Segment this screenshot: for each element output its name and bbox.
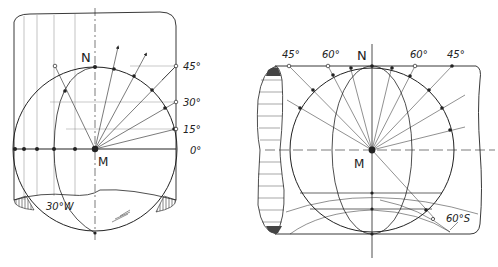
left-label-north: N — [81, 50, 91, 65]
ray-arrow-45 — [162, 66, 176, 80]
right-figure-cylindrical-projection — [257, 44, 495, 258]
right-label-center: M — [354, 157, 364, 171]
left-label-lat-15: 15° — [183, 124, 201, 135]
right-label-south-60: 60°S — [446, 213, 471, 224]
profile-shade-bottom — [266, 226, 282, 233]
right-label-north: N — [357, 48, 367, 63]
latitude-guides — [50, 66, 176, 129]
left-label-lat-30: 30° — [183, 97, 201, 108]
left-figure-cylindrical-projection — [13, 8, 178, 240]
right-label-top-left-60: 60° — [322, 49, 340, 60]
point-top-right-45 — [450, 64, 454, 68]
left-label-lat-45: 45° — [183, 61, 201, 72]
hatched-right-end — [156, 196, 176, 212]
open-points — [287, 64, 434, 220]
vertical-projection-lines — [24, 14, 75, 200]
right-label-top-right-60: 60° — [410, 49, 428, 60]
left-label-lat-0: 0° — [190, 145, 201, 156]
projection-rays — [55, 47, 176, 149]
left-label-meridian-30w: 30°W — [46, 201, 75, 212]
hatched-left-end — [14, 196, 34, 210]
right-label-top-left-45: 45° — [282, 49, 300, 60]
diagram-canvas: N M 45° 30° 15° 0° 30°W — [0, 0, 498, 267]
ground-marks — [112, 210, 130, 222]
right-label-top-right-45: 45° — [447, 49, 465, 60]
left-label-center: M — [98, 155, 108, 169]
